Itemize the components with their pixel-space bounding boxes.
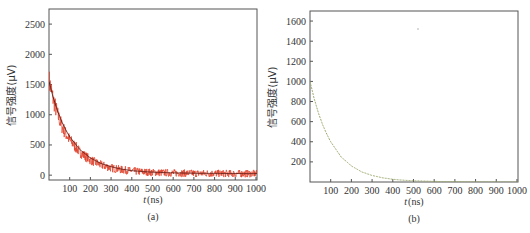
panel-a-y-axis: 05001000150020002500 bbox=[25, 19, 52, 181]
x-tick-label: 800 bbox=[468, 185, 483, 196]
x-tick-label: 100 bbox=[323, 185, 338, 196]
x-tick-label: 400 bbox=[124, 183, 139, 194]
y-tick-label: 2000 bbox=[25, 49, 45, 60]
y-tick-label: 1000 bbox=[25, 109, 45, 120]
y-tick-label: 600 bbox=[291, 116, 306, 127]
panel-b-y-label: 信号强度(μV) bbox=[266, 66, 278, 127]
panel-a-y-label: 信号强度(μV) bbox=[5, 64, 17, 125]
y-tick-label: 1500 bbox=[25, 79, 45, 90]
x-tick-label: 400 bbox=[385, 185, 400, 196]
x-tick-label: 600 bbox=[166, 183, 181, 194]
y-tick-label: 400 bbox=[291, 136, 306, 147]
x-tick-label: 200 bbox=[344, 185, 359, 196]
y-tick-label: 800 bbox=[291, 96, 306, 107]
x-tick-label: 700 bbox=[186, 183, 201, 194]
panel-b: 2004006008001000120014001600 10020030040… bbox=[266, 11, 527, 225]
y-tick-label: 1600 bbox=[286, 16, 306, 27]
panel-b-signal-line bbox=[310, 81, 518, 181]
x-tick-label: 300 bbox=[104, 183, 119, 194]
x-tick-label: 900 bbox=[228, 183, 243, 194]
panel-b-caption: (b) bbox=[408, 213, 420, 225]
panel-a-x-label-var: t bbox=[143, 194, 146, 205]
y-tick-label: 0 bbox=[40, 170, 45, 181]
x-tick-label: 900 bbox=[489, 185, 504, 196]
x-tick-label: 700 bbox=[447, 185, 462, 196]
y-tick-label: 500 bbox=[30, 139, 45, 150]
figure: 05001000150020002500 1002003004005006007… bbox=[0, 0, 530, 233]
x-tick-label: 500 bbox=[145, 183, 160, 194]
panel-a-caption: (a) bbox=[147, 211, 158, 223]
y-tick-label: 1200 bbox=[286, 56, 306, 67]
y-tick-label: 1000 bbox=[286, 76, 306, 87]
panel-a-x-label: t(ns) bbox=[143, 194, 162, 206]
x-tick-label: 800 bbox=[207, 183, 222, 194]
panel-b-x-label: t(ns) bbox=[404, 196, 423, 208]
panel-a-fit-line bbox=[49, 82, 257, 174]
x-tick-label: 1000 bbox=[507, 185, 527, 196]
x-tick-label: 200 bbox=[83, 183, 98, 194]
y-tick-label: 2500 bbox=[25, 19, 45, 30]
x-tick-label: 500 bbox=[406, 185, 421, 196]
panel-b-x-label-var: t bbox=[404, 196, 407, 207]
x-tick-label: 100 bbox=[62, 183, 77, 194]
panel-b-speck bbox=[417, 28, 418, 29]
y-tick-label: 200 bbox=[291, 156, 306, 167]
x-tick-label: 1000 bbox=[246, 183, 266, 194]
panel-a: 05001000150020002500 1002003004005006007… bbox=[5, 9, 266, 223]
panel-b-y-axis: 2004006008001000120014001600 bbox=[286, 16, 313, 168]
panel-a-noisy-signal-line bbox=[49, 72, 257, 178]
x-tick-label: 600 bbox=[427, 185, 442, 196]
x-tick-label: 300 bbox=[365, 185, 380, 196]
y-tick-label: 1400 bbox=[286, 36, 306, 47]
panel-a-x-label-unit: (ns) bbox=[147, 194, 163, 206]
panel-b-x-label-unit: (ns) bbox=[408, 196, 424, 208]
